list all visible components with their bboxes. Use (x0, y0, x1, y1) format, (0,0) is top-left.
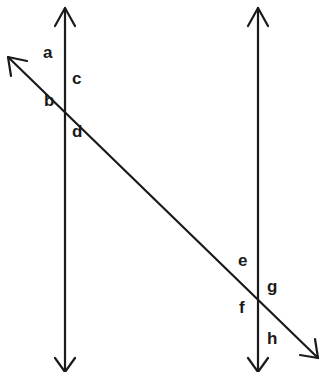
parallel-lines-diagram: a c b d e g f h (0, 0, 323, 372)
angle-label-a: a (43, 43, 53, 62)
angle-label-g: g (267, 277, 277, 296)
angle-label-h: h (267, 329, 277, 348)
right-parallel-line (248, 8, 268, 372)
angle-label-c: c (72, 69, 81, 88)
angle-label-f: f (239, 298, 245, 317)
transversal-line (8, 57, 318, 358)
left-parallel-line (55, 8, 75, 372)
angle-label-b: b (44, 91, 54, 110)
angle-label-e: e (238, 251, 247, 270)
angle-label-d: d (72, 122, 82, 141)
